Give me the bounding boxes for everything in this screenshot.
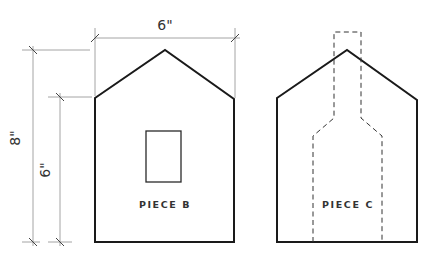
piece-b-window: [146, 131, 181, 182]
piece-c-label: PIECE C: [322, 199, 374, 210]
piece-c: PIECE C: [277, 32, 417, 242]
total-height-label: 8": [7, 130, 23, 145]
piece-c-chimney-outline: [313, 32, 382, 242]
wall-height-label: 6": [37, 162, 53, 177]
piece-b: PIECE B: [95, 50, 234, 242]
piece-b-outline: [95, 50, 234, 242]
piece-b-label: PIECE B: [139, 199, 191, 210]
piece-c-outline: [277, 50, 417, 242]
template-diagram: 6" 8" 6" PIECE B PIECE C: [0, 0, 431, 258]
width-label: 6": [157, 17, 172, 33]
wall-height-dimension: 6": [37, 93, 92, 246]
total-height-dimension: 8": [7, 46, 90, 246]
